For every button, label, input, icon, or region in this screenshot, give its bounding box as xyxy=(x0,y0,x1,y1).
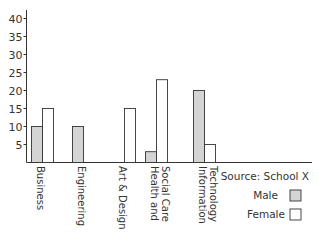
bar-male xyxy=(194,91,205,163)
bar-male xyxy=(32,127,43,163)
bar-female xyxy=(43,109,54,163)
bar-female xyxy=(205,145,216,163)
legend-label-female: Female xyxy=(247,208,285,220)
x-category-label: Business xyxy=(35,166,46,210)
y-tick-label: 35 xyxy=(9,31,23,44)
legend-swatch-male xyxy=(290,190,301,201)
bar-male xyxy=(73,127,84,163)
x-category-label: Information xyxy=(197,166,208,224)
x-category-label: Art & Design xyxy=(117,166,128,230)
bar-chart: 510152025303540 BusinessEngineeringArt &… xyxy=(0,0,318,233)
x-axis-labels: BusinessEngineeringArt & DesignHealth an… xyxy=(35,165,219,230)
y-tick-label: 25 xyxy=(9,67,23,80)
bars xyxy=(32,80,216,163)
y-tick-label: 20 xyxy=(9,85,23,98)
y-tick-label: 40 xyxy=(9,13,23,26)
y-tick-label: 15 xyxy=(9,103,23,116)
legend-swatch-female xyxy=(290,209,301,220)
x-category-label: Engineering xyxy=(76,166,87,226)
x-category-label: Social Care xyxy=(160,166,171,222)
bar-female xyxy=(125,109,136,163)
source-annotation: Source: School X xyxy=(221,170,309,182)
bar-female xyxy=(157,80,168,163)
legend-label-male: Male xyxy=(253,189,278,201)
legend: Source: School X Male Female xyxy=(221,170,309,220)
y-tick-label: 10 xyxy=(9,121,23,134)
bar-male xyxy=(146,152,157,163)
y-tick-label: 30 xyxy=(9,49,23,62)
x-category-label: Health and xyxy=(149,166,160,221)
x-category-label: Technology xyxy=(208,165,219,222)
y-tick-label: 5 xyxy=(16,139,23,152)
